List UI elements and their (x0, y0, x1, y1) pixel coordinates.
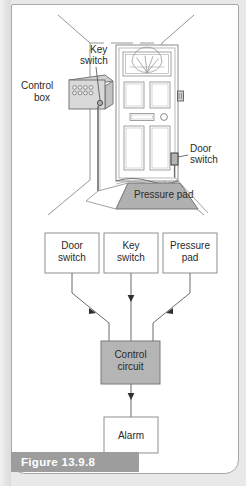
door-panel-upper-left-inset (126, 84, 142, 106)
connector-left (72, 273, 109, 341)
block-control-circuit: Control circuit (101, 341, 160, 384)
block-pressure-pad-line1: Pressure (170, 240, 210, 251)
figure-page: Pressure pad Door switch Key switch (0, 0, 246, 486)
ceiling-line-left (58, 15, 90, 43)
block-pressure-pad-line2: pad (182, 252, 199, 263)
key-switch-label-line1: Key (90, 44, 107, 55)
door-panel-lower-left-inset (126, 128, 142, 168)
door-switch-label-line2: switch (190, 154, 218, 165)
pressure-pad-label: Pressure pad (134, 189, 193, 200)
door-strike-plate (178, 91, 184, 101)
page-edge-shadow (0, 0, 11, 486)
block-diagram-group: Door switch Key switch Pressure pad (45, 233, 217, 453)
door-switch-leader-line (178, 155, 188, 157)
door-panel-lower-right-inset (152, 128, 168, 168)
keypad-button-4 (89, 86, 93, 90)
keypad-button-6 (78, 91, 82, 95)
block-key-switch-line1: Key (122, 240, 139, 251)
figure-panel: Pressure pad Door switch Key switch (11, 4, 239, 474)
connector-middle-arrowhead (128, 295, 135, 302)
block-control-circuit-line2: circuit (117, 361, 143, 372)
control-box-cable-group (98, 106, 100, 191)
block-pressure-pad: Pressure pad (163, 233, 217, 273)
door-panel-upper-right-inset (152, 84, 168, 106)
figure-panel-inner: Pressure pad Door switch Key switch (12, 5, 238, 473)
block-door-switch: Door switch (45, 233, 99, 273)
pressure-pad-group: Pressure pad (86, 183, 198, 209)
connector-right (153, 273, 190, 341)
block-door-switch-line1: Door (61, 240, 83, 251)
door-switch-label-line1: Door (190, 143, 212, 154)
alarm-system-figure-illustration: Pressure pad Door switch Key switch (12, 5, 238, 473)
block-door-switch-line2: switch (58, 252, 86, 263)
block-alarm: Alarm (104, 417, 158, 453)
block-control-circuit-line1: Control (114, 349, 146, 360)
control-box-label-group: Control box (21, 80, 53, 103)
keypad-button-8 (89, 91, 93, 95)
keypad-button-5 (73, 91, 77, 95)
control-box-side-face (105, 81, 113, 109)
door-switch-body (171, 153, 178, 165)
figure-caption-label: Figure 13.9.8 (11, 456, 95, 468)
control-box-label-line2: box (34, 92, 50, 103)
key-switch-keyhole (97, 100, 102, 105)
keypad-button-3 (84, 86, 88, 90)
block-alarm-label: Alarm (118, 430, 144, 441)
block-key-switch: Key switch (104, 233, 158, 273)
door-letterbox-inset (132, 115, 153, 119)
figure-caption-bar: Figure 13.9.8 (11, 452, 139, 472)
control-box-group (69, 75, 113, 109)
keypad-button-7 (84, 91, 88, 95)
connector-alarm-arrowhead (128, 393, 135, 400)
ceiling-line-right (162, 15, 194, 43)
block-key-switch-line2: switch (117, 252, 145, 263)
key-switch-label-line2: switch (80, 55, 108, 66)
keypad-button-2 (78, 86, 82, 90)
keypad-button-1 (73, 86, 77, 90)
door-knob (161, 114, 168, 121)
floor-line-left (48, 180, 90, 215)
control-box-label-line1: Control (21, 80, 53, 91)
